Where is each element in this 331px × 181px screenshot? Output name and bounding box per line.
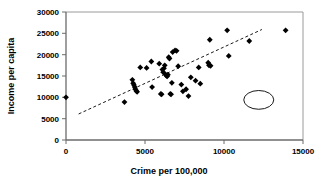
y-axis-title: Income per capita: [6, 37, 16, 115]
y-tick-label: 0: [55, 136, 60, 145]
x-tick-label: 15000: [292, 147, 315, 156]
data-point: [63, 94, 69, 100]
data-point: [122, 99, 128, 105]
data-point: [148, 59, 154, 65]
trendline: [79, 29, 262, 113]
y-tick-label: 10000: [37, 93, 60, 102]
y-tick-label: 30000: [37, 8, 60, 17]
x-tick-label: 10000: [213, 147, 236, 156]
chart-canvas: 0 5000 10000 15000 20000 25000 30000 0 5…: [0, 0, 331, 181]
data-point: [149, 84, 155, 90]
data-point: [137, 65, 143, 71]
y-tick-label: 15000: [37, 72, 60, 81]
data-point: [175, 63, 181, 69]
outlier-circle: [244, 91, 274, 110]
x-axis-title: Crime per 100,000: [130, 166, 207, 176]
data-point: [283, 27, 289, 33]
y-tick-label: 20000: [37, 51, 60, 60]
data-point: [207, 37, 213, 43]
data-point: [197, 81, 203, 87]
data-point: [178, 82, 184, 88]
data-point: [226, 53, 232, 59]
data-point: [144, 65, 150, 71]
data-point: [188, 74, 194, 80]
annotations: [244, 91, 274, 110]
y-tick-label: 5000: [41, 115, 59, 124]
data-point: [169, 80, 175, 86]
data-point: [196, 65, 202, 71]
y-tick-labels: 0 5000 10000 15000 20000 25000 30000: [37, 8, 60, 145]
data-point: [156, 61, 162, 67]
y-tick-label: 25000: [37, 29, 60, 38]
data-point: [224, 27, 230, 33]
data-point: [246, 38, 252, 44]
plot-frame: [66, 12, 303, 140]
x-tick-labels: 0 5000 10000 15000: [64, 147, 315, 156]
x-tick-label: 5000: [136, 147, 154, 156]
scatter-chart: 0 5000 10000 15000 20000 25000 30000 0 5…: [0, 0, 331, 181]
data-point: [186, 93, 192, 99]
trendline-path: [79, 29, 262, 113]
data-points: [63, 27, 288, 104]
data-point: [193, 78, 199, 84]
x-tick-label: 0: [64, 147, 69, 156]
